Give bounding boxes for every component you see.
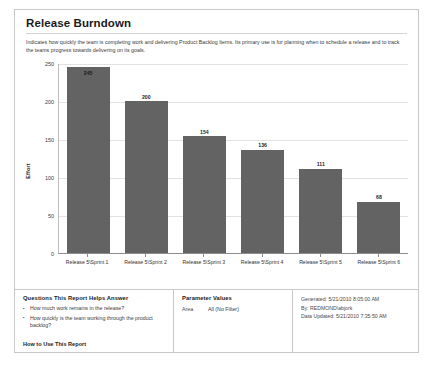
burndown-chart: Effort 050100150200250 24520015413611168… — [25, 64, 408, 282]
x-axis-tick-label: Release 5\Sprint 3 — [175, 259, 233, 265]
x-axis-tick: Release 5\Sprint 3 — [175, 254, 233, 265]
y-axis-ticks: 050100150200250 — [41, 64, 56, 254]
parameters-heading: Parameter Values — [182, 295, 284, 301]
x-axis-tick-mark — [203, 254, 204, 257]
x-axis-tick-label: Release 5\Sprint 5 — [291, 259, 349, 265]
y-axis-tick-label: 50 — [48, 213, 54, 219]
questions-list: How much work remains in the release?How… — [23, 305, 165, 330]
questions-panel: Questions This Report Helps Answer How m… — [15, 290, 173, 352]
plot-wrapper: 050100150200250 24520015413611168 Releas… — [41, 64, 408, 282]
how-to-use-link[interactable]: How to Use This Report — [23, 341, 86, 347]
x-axis-tick-mark — [378, 254, 379, 257]
y-axis-tick-label: 250 — [45, 61, 54, 67]
y-axis-tick-label: 100 — [45, 175, 54, 181]
parameter-row: AreaAll (No Filter) — [182, 305, 284, 313]
x-axis-tick: Release 5\Sprint 2 — [116, 254, 174, 265]
bar-value-label: 68 — [376, 194, 382, 200]
x-axis-tick-mark — [87, 254, 88, 257]
metadata-panel: Generated: 5/21/2010 8:05:00 AM By: REDM… — [292, 290, 418, 352]
parameter-value: All (No Filter) — [208, 305, 239, 313]
x-axis-tick-mark — [262, 254, 263, 257]
x-axis-tick-mark — [320, 254, 321, 257]
x-axis-tick: Release 5\Sprint 1 — [58, 254, 116, 265]
report-header: Release Burndown Indicates how quickly t… — [15, 10, 418, 54]
bar[interactable] — [299, 169, 342, 253]
y-axis-label: Effort — [25, 141, 31, 201]
bar[interactable] — [125, 101, 168, 253]
parameter-rows: AreaAll (No Filter) — [182, 305, 284, 313]
bar[interactable] — [183, 136, 226, 253]
bar-value-label: 200 — [142, 94, 151, 100]
bar-slot: 154 — [175, 64, 233, 253]
bar-value-label: 111 — [317, 161, 325, 167]
parameters-panel: Parameter Values AreaAll (No Filter) — [173, 290, 292, 352]
report-description: Indicates how quickly the team is comple… — [26, 39, 407, 54]
bar-value-label: 136 — [258, 142, 267, 148]
data-updated-timestamp: Data Updated: 5/21/2010 7:35:50 AM — [301, 312, 410, 321]
bar-slot: 68 — [350, 64, 408, 253]
report-container: Release Burndown Indicates how quickly t… — [14, 9, 419, 353]
questions-heading: Questions This Report Helps Answer — [23, 295, 165, 301]
x-axis-tick: Release 5\Sprint 5 — [291, 254, 349, 265]
page-title: Release Burndown — [26, 16, 407, 30]
bar-slot: 245 — [59, 64, 117, 253]
bar[interactable] — [241, 150, 284, 253]
plot-area: 24520015413611168 — [58, 64, 408, 254]
bar-slot: 136 — [234, 64, 292, 253]
bar-slot: 111 — [292, 64, 350, 253]
bar-slot: 200 — [117, 64, 175, 253]
generated-by: By: REDMOND\abjork — [301, 304, 410, 313]
question-item: How much work remains in the release? — [23, 305, 165, 312]
x-axis-tick-label: Release 5\Sprint 4 — [233, 259, 291, 265]
bar[interactable] — [357, 202, 400, 254]
generated-timestamp: Generated: 5/21/2010 8:05:00 AM — [301, 295, 410, 304]
bar[interactable] — [67, 67, 110, 253]
bar-series: 24520015413611168 — [59, 64, 408, 253]
bar-value-label: 154 — [200, 129, 209, 135]
x-axis-tick-label: Release 5\Sprint 6 — [350, 259, 408, 265]
x-axis-tick: Release 5\Sprint 4 — [233, 254, 291, 265]
x-axis-ticks: Release 5\Sprint 1Release 5\Sprint 2Rele… — [58, 254, 408, 265]
y-axis-tick-label: 0 — [51, 251, 54, 257]
y-axis-tick-label: 200 — [45, 99, 54, 105]
question-item: How quickly is the team working through … — [23, 315, 165, 330]
y-axis-tick-label: 150 — [45, 137, 54, 143]
x-axis-tick-mark — [145, 254, 146, 257]
title-divider — [26, 33, 407, 34]
x-axis-tick-label: Release 5\Sprint 2 — [116, 259, 174, 265]
bar-value-label: 245 — [84, 70, 93, 76]
x-axis-tick: Release 5\Sprint 6 — [350, 254, 408, 265]
parameter-label: Area — [182, 305, 208, 313]
x-axis-tick-label: Release 5\Sprint 1 — [58, 259, 116, 265]
report-footer: Questions This Report Helps Answer How m… — [15, 289, 418, 352]
